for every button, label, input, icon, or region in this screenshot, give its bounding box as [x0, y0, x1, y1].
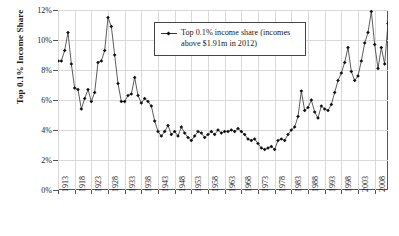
data-point [316, 116, 320, 120]
data-point [86, 88, 90, 92]
legend-line-2: above $1.91m in 2012) [181, 39, 257, 48]
data-point [383, 62, 387, 66]
data-point [223, 130, 227, 134]
data-point [116, 82, 120, 86]
data-point [96, 61, 100, 65]
data-point [299, 89, 303, 93]
data-point [333, 91, 337, 95]
data-point [133, 76, 137, 80]
data-point [346, 46, 350, 50]
x-tick-mark [191, 190, 192, 194]
x-tick-mark [108, 190, 109, 194]
data-point [276, 139, 280, 143]
y-tick-label: 10% [28, 36, 52, 45]
x-tick-mark [141, 190, 142, 194]
y-tick-label: 12% [28, 6, 52, 15]
x-tick-mark [258, 190, 259, 194]
data-point [69, 62, 73, 66]
legend-line-1: Top 0.1% income share (incomes [181, 28, 290, 37]
data-point [136, 94, 140, 98]
data-point [119, 100, 123, 104]
data-point [126, 94, 130, 98]
data-point [113, 53, 117, 57]
data-point [73, 86, 77, 90]
data-point [123, 100, 127, 104]
data-point [279, 137, 283, 141]
chart-container: Top 0.1% Income Share 0%2%4%6%8%10%12% 1… [0, 0, 399, 236]
x-tick-mark [375, 190, 376, 194]
line-marker-icon [161, 28, 177, 39]
y-tick-label: 2% [28, 156, 52, 165]
data-point [103, 49, 107, 53]
data-point [363, 41, 367, 45]
data-point [249, 139, 253, 143]
plot-area: 0%2%4%6%8%10%12% 19131918192319281933193… [58, 10, 388, 190]
data-point [99, 59, 103, 63]
data-point [63, 49, 67, 53]
data-point [59, 59, 63, 63]
x-tick-mark [58, 190, 59, 194]
data-point [296, 115, 300, 119]
data-point [66, 31, 70, 35]
x-tick-mark [341, 190, 342, 194]
data-point [229, 128, 233, 132]
data-point [83, 97, 87, 101]
data-point [379, 46, 383, 50]
x-tick-mark [91, 190, 92, 194]
data-point [376, 67, 380, 71]
data-point [166, 124, 170, 128]
data-point [266, 146, 270, 150]
data-point [109, 25, 113, 29]
data-point [359, 59, 363, 63]
data-point [106, 16, 110, 20]
data-point [336, 79, 340, 83]
data-point [153, 119, 157, 123]
data-point [309, 98, 313, 102]
x-tick-mark [275, 190, 276, 194]
x-tick-mark [125, 190, 126, 194]
data-point [76, 88, 80, 92]
y-axis-label: Top 0.1% Income Share [15, 0, 25, 122]
x-tick-mark [325, 190, 326, 194]
y-tick-label: 4% [28, 126, 52, 135]
x-tick-mark [225, 190, 226, 194]
data-point [339, 71, 343, 75]
data-point [329, 103, 333, 107]
data-point [283, 139, 287, 143]
y-tick-label: 8% [28, 66, 52, 75]
legend-text: Top 0.1% income share (incomes above $1.… [181, 28, 290, 49]
data-point [369, 10, 373, 13]
y-tick-label: 6% [28, 96, 52, 105]
data-point [373, 43, 377, 47]
x-tick-mark [175, 190, 176, 194]
data-point [326, 109, 330, 113]
y-tick-label: 0% [28, 186, 52, 195]
data-point [89, 100, 93, 104]
data-point [349, 70, 353, 74]
x-tick-mark [291, 190, 292, 194]
data-point [343, 61, 347, 65]
data-point [226, 130, 230, 134]
data-point [93, 91, 97, 95]
legend-box: Top 0.1% income share (incomes above $1.… [154, 22, 306, 56]
data-point [313, 110, 317, 114]
data-point [263, 148, 267, 152]
data-point [366, 31, 370, 35]
x-tick-mark [158, 190, 159, 194]
x-tick-mark [75, 190, 76, 194]
data-point [386, 22, 388, 26]
data-point [79, 107, 83, 111]
x-tick-mark [358, 190, 359, 194]
x-tick-mark [208, 190, 209, 194]
data-point [129, 92, 133, 96]
data-point [179, 125, 183, 129]
x-tick-mark [308, 190, 309, 194]
x-tick-mark [241, 190, 242, 194]
